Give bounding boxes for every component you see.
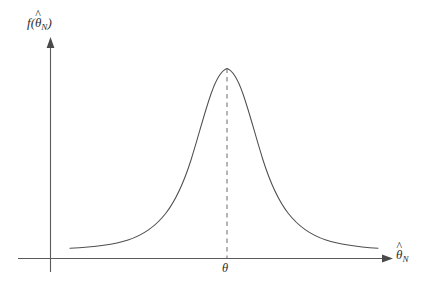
density-curve bbox=[70, 69, 378, 249]
x-axis-arrowhead bbox=[382, 255, 393, 263]
y-axis-label-close-paren: ) bbox=[47, 15, 51, 30]
y-axis-arrowhead bbox=[47, 37, 55, 48]
x-axis-label-theta-hat: θ^ bbox=[396, 248, 402, 261]
x-axis-label-subscript: N bbox=[402, 254, 408, 264]
figure-canvas: f(θ^N) θ^N θ bbox=[0, 0, 429, 285]
x-axis bbox=[18, 255, 393, 263]
y-axis bbox=[47, 37, 55, 272]
x-axis-label: θ^N bbox=[396, 248, 408, 264]
x-axis-tick-label-theta: θ bbox=[222, 262, 228, 275]
y-axis-label-hat-icon: ^ bbox=[35, 9, 41, 21]
plot-area bbox=[0, 0, 429, 285]
x-axis-label-hat-icon: ^ bbox=[396, 241, 402, 253]
y-axis-label-theta-hat: θ^ bbox=[35, 16, 41, 29]
y-axis-label: f(θ^N) bbox=[27, 16, 52, 32]
